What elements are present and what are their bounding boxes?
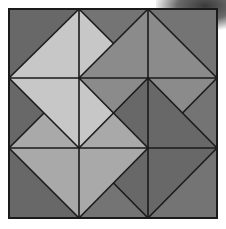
figure-canvas: Square dissected into triangles (3x3 gri… [0, 0, 226, 229]
dissected-square [0, 0, 226, 229]
